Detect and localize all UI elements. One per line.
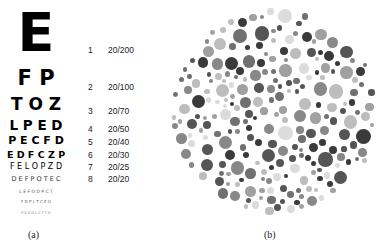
plate-dot: [244, 204, 249, 209]
plate-dot: [317, 176, 322, 181]
plate-dot: [179, 104, 189, 114]
plate-dot: [187, 119, 197, 129]
plate-dot: [320, 75, 325, 80]
plate-dot: [222, 79, 226, 83]
plate-dot: [252, 201, 259, 208]
plate-dot: [226, 182, 230, 186]
plate-dot: [243, 152, 250, 159]
plate-dot: [245, 110, 253, 118]
plate-dot: [266, 178, 273, 185]
plate-dot: [335, 61, 340, 66]
plate-dot: [249, 14, 257, 22]
plate-dot: [219, 171, 224, 176]
plate-dot: [295, 89, 300, 94]
plate-dot: [192, 95, 205, 108]
plate-dot: [245, 45, 250, 50]
plate-dot: [234, 75, 238, 79]
plate-dot: [279, 64, 292, 77]
plate-dot: [224, 98, 228, 102]
plate-dot: [314, 188, 318, 192]
plate-dot: [284, 174, 288, 178]
plate-dot: [256, 42, 263, 49]
plate-dot: [280, 47, 288, 55]
plate-dot: [343, 102, 347, 106]
plate-dot: [218, 188, 228, 198]
plate-dot: [236, 67, 244, 75]
plate-dot: [274, 204, 281, 211]
plate-dot: [220, 27, 227, 34]
plate-dot: [276, 159, 284, 167]
plate-dot: [279, 106, 287, 114]
plate-dot: [339, 129, 350, 140]
plate-dot: [319, 195, 325, 201]
plate-dot: [267, 85, 275, 93]
plate-dot: [201, 159, 213, 171]
plate-dot: [225, 71, 230, 76]
plate-dot: [320, 126, 329, 135]
plate-dot: [309, 143, 318, 152]
plate-dot: [229, 43, 236, 50]
plate-dot: [298, 135, 305, 142]
plate-dot: [192, 79, 200, 87]
color-blindness-plate: [0, 0, 381, 244]
plate-dot: [238, 18, 248, 28]
plate-dot: [350, 89, 358, 97]
plate-dot: [346, 159, 352, 165]
plate-dot: [306, 75, 312, 81]
plate-dot: [302, 13, 309, 20]
plate-dot: [315, 29, 327, 41]
plate-dot: [250, 70, 260, 80]
plate-dot: [287, 89, 291, 93]
plate-dot: [292, 144, 298, 150]
plate-dot: [355, 157, 360, 162]
plate-dot: [257, 59, 265, 67]
plate-dot: [243, 77, 247, 81]
plate-dot: [264, 52, 268, 56]
plate-dot: [317, 168, 322, 173]
plate-dot: [284, 58, 288, 62]
plate-dot: [199, 128, 203, 132]
plate-dot: [203, 121, 211, 129]
plate-dot: [234, 105, 240, 111]
plate-dot: [307, 196, 317, 206]
plate-dot: [300, 176, 309, 185]
plate-dot: [187, 74, 192, 79]
plate-dot: [207, 72, 212, 77]
plate-dot: [296, 188, 301, 193]
plate-dot: [294, 110, 306, 122]
plate-dot: [340, 46, 352, 58]
plate-dot: [233, 29, 248, 44]
plate-dot: [362, 158, 367, 163]
plate-dot: [240, 97, 251, 108]
plate-dot: [231, 161, 245, 175]
plate-dot: [290, 164, 300, 174]
plate-dot: [269, 56, 275, 62]
plate-dot: [299, 148, 303, 152]
plate-dot: [172, 115, 177, 120]
plate-dot: [259, 196, 263, 200]
plate-dot: [210, 30, 215, 35]
plate-dot: [198, 57, 208, 67]
plate-dot: [214, 38, 226, 50]
plate-dot: [254, 83, 263, 92]
plate-dot: [358, 148, 367, 157]
plate-dot: [265, 207, 274, 216]
plate-dot: [349, 99, 355, 105]
plate-dot: [253, 116, 257, 120]
plate-dot: [363, 63, 367, 67]
plate-dot: [220, 109, 231, 120]
plate-dot: [229, 82, 234, 87]
plate-dot: [223, 104, 227, 108]
plate-dot: [340, 66, 353, 79]
plate-dot: [315, 57, 319, 61]
plate-dot: [280, 199, 285, 204]
plate-dot: [184, 86, 192, 94]
plate-dot: [321, 63, 330, 72]
plate-dot: [324, 51, 334, 61]
plate-dot: [293, 78, 299, 84]
plate-dot: [212, 58, 224, 70]
plate-dot: [188, 140, 195, 147]
caption-b: (b): [264, 229, 276, 240]
plate-dot: [243, 119, 248, 124]
plate-dot: [245, 186, 256, 197]
